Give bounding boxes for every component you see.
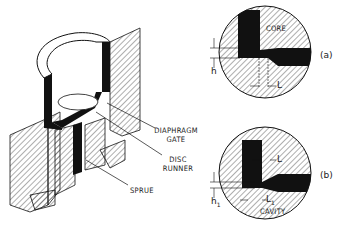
- diagram-canvas: [0, 0, 345, 233]
- diaphragm-label-line1: DIAPHRAGM: [152, 126, 200, 135]
- detail-a-circle: [210, 0, 330, 100]
- sprue-label: SPRUE: [130, 186, 154, 195]
- L1-subscript: 1: [271, 199, 275, 206]
- core-label: CORE: [266, 24, 286, 33]
- disc-runner-label: DISC RUNNER: [160, 155, 196, 173]
- mould-section-view: [10, 28, 162, 212]
- cavity-label: CAVITY: [260, 207, 286, 216]
- h1-subscript: 1: [217, 201, 221, 208]
- gate-label-line2: GATE: [152, 135, 200, 144]
- disc-label-line1: DISC: [160, 155, 196, 164]
- h-dimension-label: h: [211, 66, 217, 76]
- L-dimension-label-b: L: [277, 154, 282, 164]
- runner-label-line2: RUNNER: [160, 164, 196, 173]
- detail-a-caption: (a): [320, 50, 333, 60]
- L1-dimension-label: L1: [266, 194, 275, 206]
- h1-dimension-label: h1: [211, 196, 221, 208]
- diaphragm-gate-label: DIAPHRAGM GATE: [152, 126, 200, 144]
- L-dimension-label: L: [277, 80, 282, 90]
- detail-b-caption: (b): [320, 170, 333, 180]
